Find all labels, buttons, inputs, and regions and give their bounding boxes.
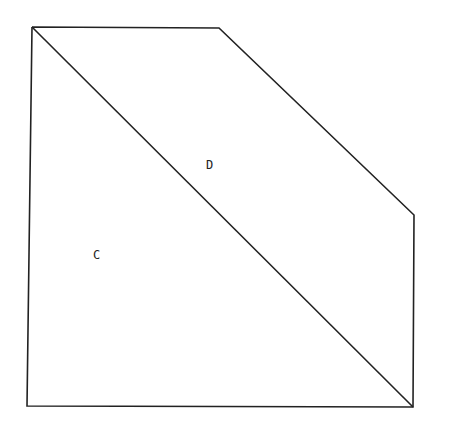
region-label-c: C xyxy=(93,248,100,262)
region-label-d: D xyxy=(206,158,213,172)
geometry-diagram: D C xyxy=(0,0,475,438)
diagonal-line xyxy=(32,27,413,407)
